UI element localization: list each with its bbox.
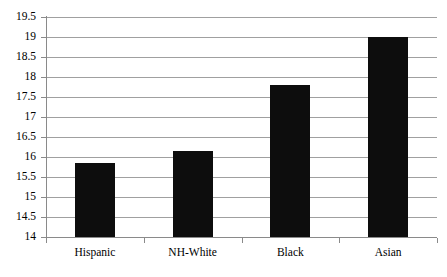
y-tick-mark <box>41 17 46 18</box>
y-tick-mark <box>41 77 46 78</box>
y-axis-tick-label: 17 <box>0 111 36 123</box>
y-axis-tick-label: 16 <box>0 151 36 163</box>
x-axis-tick-label: Hispanic <box>46 246 144 259</box>
y-tick-mark <box>41 117 46 118</box>
y-axis-tick-label: 17.5 <box>0 91 36 103</box>
y-tick-mark <box>41 177 46 178</box>
y-axis-tick-label: 15 <box>0 191 36 203</box>
x-tick-mark <box>339 238 340 243</box>
x-tick-mark <box>144 238 145 243</box>
y-tick-mark <box>41 197 46 198</box>
y-axis-tick-label: 19 <box>0 31 36 43</box>
bar <box>173 151 213 237</box>
bar <box>75 163 115 237</box>
y-tick-mark <box>41 57 46 58</box>
y-axis-tick-label: 19.5 <box>0 11 36 23</box>
x-tick-mark <box>46 238 47 243</box>
y-axis-tick-label: 15.5 <box>0 171 36 183</box>
bar <box>270 85 310 237</box>
y-axis-tick-label: 18.5 <box>0 51 36 63</box>
gridline <box>46 17 437 18</box>
plot-area <box>46 17 437 237</box>
y-tick-mark <box>41 217 46 218</box>
y-axis-line <box>46 16 47 238</box>
x-tick-mark <box>437 238 438 243</box>
y-axis-tick-label: 16.5 <box>0 131 36 143</box>
y-axis-tick-label: 18 <box>0 71 36 83</box>
y-tick-mark <box>41 97 46 98</box>
y-tick-mark <box>41 37 46 38</box>
x-axis-tick-label: Black <box>242 246 340 259</box>
x-axis-tick-label: Asian <box>339 246 437 259</box>
x-tick-mark <box>242 238 243 243</box>
x-axis-tick-label: NH-White <box>144 246 242 259</box>
y-tick-mark <box>41 137 46 138</box>
y-axis-tick-label: 14 <box>0 231 36 243</box>
bar-chart: 19.51918.51817.51716.51615.51514.514 His… <box>0 0 447 277</box>
y-tick-mark <box>41 157 46 158</box>
bar <box>368 37 408 237</box>
y-axis-tick-label: 14.5 <box>0 211 36 223</box>
